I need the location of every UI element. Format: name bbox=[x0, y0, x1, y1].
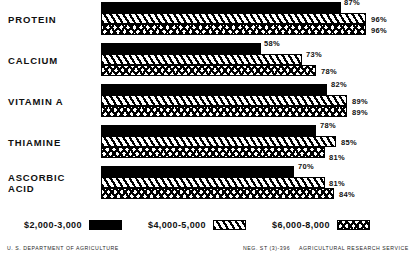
bars-calcium: 58% 73% 78% bbox=[101, 43, 404, 77]
bar-vitamin-a-series-1 bbox=[101, 84, 327, 95]
bar-ascorbic-acid-series-2 bbox=[101, 177, 325, 188]
value-label: 73% bbox=[306, 50, 322, 59]
bar-vitamin-a-series-2 bbox=[101, 95, 347, 106]
bars-vitamin-a: 82% 89% 89% bbox=[101, 84, 404, 118]
bar-group-vitamin-a: VITAMIN A 82% 89% 89% bbox=[0, 83, 404, 118]
chart-footer: U. S. DEPARTMENT OF AGRICULTURE NEG. ST … bbox=[0, 243, 404, 257]
bar-vitamin-a-series-3 bbox=[101, 106, 347, 117]
solid-black-swatch-icon bbox=[89, 220, 122, 230]
category-label-ascorbic-acid: ASCORBIC ACID bbox=[8, 172, 96, 194]
bar-group-calcium: CALCIUM 58% 73% 78% bbox=[0, 42, 404, 77]
value-label: 81% bbox=[329, 153, 345, 162]
value-label: 96% bbox=[371, 25, 387, 34]
legend-label: $6,000-8,000 bbox=[272, 220, 330, 230]
legend-label: $2,000-3,000 bbox=[24, 220, 82, 230]
bar-calcium-series-2 bbox=[101, 54, 302, 65]
value-label: 78% bbox=[321, 66, 337, 75]
value-label: 58% bbox=[264, 39, 280, 48]
bar-row: 87% bbox=[101, 2, 404, 13]
bar-row: 82% bbox=[101, 84, 404, 95]
bar-row: 78% bbox=[101, 65, 404, 76]
bar-ascorbic-acid-series-1 bbox=[101, 166, 294, 177]
bar-calcium-series-3 bbox=[101, 65, 316, 76]
legend-item-2000-3000: $2,000-3,000 bbox=[24, 212, 122, 238]
category-label-calcium: CALCIUM bbox=[8, 54, 96, 65]
bar-thiamine-series-2 bbox=[101, 136, 336, 147]
bar-thiamine-series-3 bbox=[101, 147, 325, 158]
category-label-vitamin-a: VITAMIN A bbox=[8, 95, 96, 106]
category-label-protein: PROTEIN bbox=[8, 13, 96, 24]
bars-thiamine: 78% 85% 81% bbox=[101, 125, 404, 159]
bar-chart: PROTEIN 87% 96% 96% CALCIUM 58% bbox=[0, 0, 404, 208]
category-label-thiamine: THIAMINE bbox=[8, 136, 96, 147]
bar-row: 70% bbox=[101, 166, 404, 177]
bars-protein: 87% 96% 96% bbox=[101, 2, 404, 36]
value-label: 82% bbox=[331, 80, 347, 89]
bar-calcium-series-1 bbox=[101, 43, 261, 54]
footer-negative-number: NEG. ST (3)-396 bbox=[243, 245, 290, 251]
value-label: 70% bbox=[298, 162, 314, 171]
legend-item-6000-8000: $6,000-8,000 bbox=[272, 212, 370, 238]
bar-row: 96% bbox=[101, 13, 404, 24]
value-label: 84% bbox=[339, 189, 355, 198]
bar-row: 96% bbox=[101, 24, 404, 35]
footer-agency-left: U. S. DEPARTMENT OF AGRICULTURE bbox=[7, 245, 119, 251]
bar-protein-series-1 bbox=[101, 2, 341, 13]
value-label: 78% bbox=[320, 121, 336, 130]
bar-row: 81% bbox=[101, 177, 404, 188]
legend-item-4000-5000: $4,000-5,000 bbox=[148, 212, 246, 238]
bar-ascorbic-acid-series-3 bbox=[101, 188, 334, 199]
bar-row: 89% bbox=[101, 95, 404, 106]
bar-row: 84% bbox=[101, 188, 404, 199]
bar-group-thiamine: THIAMINE 78% 85% 81% bbox=[0, 124, 404, 159]
bar-row: 81% bbox=[101, 147, 404, 158]
diagonal-hatch-swatch-icon bbox=[213, 220, 246, 230]
bar-row: 58% bbox=[101, 43, 404, 54]
legend-label: $4,000-5,000 bbox=[148, 220, 206, 230]
value-label: 87% bbox=[344, 0, 360, 7]
value-label: 96% bbox=[371, 14, 387, 23]
bar-group-ascorbic-acid: ASCORBIC ACID 70% 81% 84% bbox=[0, 165, 404, 200]
cross-hatch-swatch-icon bbox=[337, 220, 370, 230]
bar-protein-series-2 bbox=[101, 13, 366, 24]
bar-thiamine-series-1 bbox=[101, 125, 316, 136]
bar-row: 73% bbox=[101, 54, 404, 65]
bar-row: 85% bbox=[101, 136, 404, 147]
footer-agency-right: AGRICULTURAL RESEARCH SERVICE bbox=[299, 245, 409, 251]
bars-ascorbic-acid: 70% 81% 84% bbox=[101, 166, 404, 200]
value-label: 81% bbox=[329, 178, 345, 187]
chart-legend: $2,000-3,000 $4,000-5,000 $6,000-8,000 bbox=[0, 212, 404, 238]
bar-group-protein: PROTEIN 87% 96% 96% bbox=[0, 1, 404, 36]
bar-protein-series-3 bbox=[101, 24, 366, 35]
value-label: 85% bbox=[341, 137, 357, 146]
value-label: 89% bbox=[352, 96, 368, 105]
bar-row: 78% bbox=[101, 125, 404, 136]
value-label: 89% bbox=[352, 107, 368, 116]
bar-row: 89% bbox=[101, 106, 404, 117]
